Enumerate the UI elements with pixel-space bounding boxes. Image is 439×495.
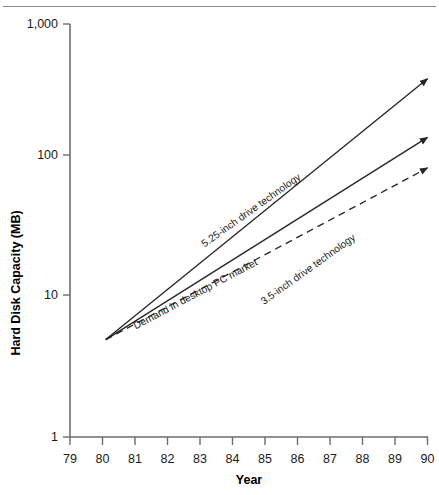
x-tick-label-90: 90 <box>421 452 435 466</box>
y-tick-label-10: 10 <box>44 288 58 302</box>
chart-canvas: 1,000 100 10 1 Hard Disk Capacity (MB) <box>0 0 439 495</box>
x-tick-label-79: 79 <box>63 452 77 466</box>
x-tick-label-80: 80 <box>96 452 110 466</box>
x-tick-label-82: 82 <box>161 452 175 466</box>
y-axis-title: Hard Disk Capacity (MB) <box>9 210 23 355</box>
x-tick-label-88: 88 <box>356 452 370 466</box>
y-tick-label-1000: 1,000 <box>27 17 58 31</box>
x-axis-title: Year <box>236 473 263 487</box>
x-axis: 79 80 81 82 83 84 85 86 87 88 89 90 Year <box>63 437 434 487</box>
x-axis-tick-labels: 79 80 81 82 83 84 85 86 87 88 89 90 <box>63 452 434 466</box>
series-labels: 5.25-inch drive technology 3.5-inch driv… <box>132 171 358 332</box>
series-label-5-25-inch: 5.25-inch drive technology <box>199 171 303 250</box>
x-tick-label-89: 89 <box>388 452 402 466</box>
x-tick-label-86: 86 <box>291 452 305 466</box>
x-axis-ticks <box>70 437 428 445</box>
y-axis: 1,000 100 10 1 Hard Disk Capacity (MB) <box>9 17 70 444</box>
chart-figure: 1,000 100 10 1 Hard Disk Capacity (MB) <box>0 0 439 495</box>
y-tick-label-1: 1 <box>51 430 58 444</box>
y-axis-ticks <box>63 24 70 437</box>
series-label-3-5-inch: 3.5-inch drive technology <box>259 231 358 306</box>
x-tick-label-85: 85 <box>258 452 272 466</box>
y-tick-label-100: 100 <box>37 148 58 162</box>
y-axis-tick-labels: 1,000 100 10 1 <box>27 17 58 444</box>
x-tick-label-87: 87 <box>323 452 337 466</box>
x-tick-label-83: 83 <box>193 452 207 466</box>
x-tick-label-81: 81 <box>128 452 142 466</box>
x-tick-label-84: 84 <box>226 452 240 466</box>
